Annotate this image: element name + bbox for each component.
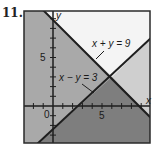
x-tick-label-5: 5 [99, 110, 105, 121]
y-axis-label: y [55, 10, 62, 21]
inequality-graph: y x 0 5 5 x + y = 9 x − y = 3 [0, 0, 162, 152]
y-tick-label-5: 5 [40, 52, 46, 63]
origin-label: 0 [44, 109, 50, 120]
equation-label-x-plus-y-9: x + y = 9 [91, 38, 131, 49]
x-axis-label: x [145, 95, 152, 106]
equation-label-x-minus-y-3: x − y = 3 [58, 72, 98, 83]
